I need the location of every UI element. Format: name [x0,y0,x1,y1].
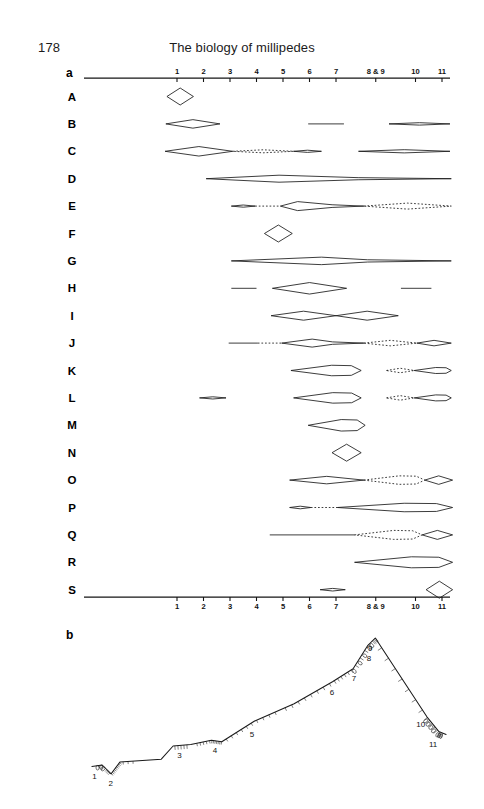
row-label-l: L [64,392,80,404]
profile-hatch [434,730,438,733]
profile-loop-ornament [425,722,430,727]
range-shape-wedge [337,503,452,512]
row-label-b: B [64,118,80,130]
profile-segment-label-3: 3 [177,751,182,760]
profile-loop-ornament [369,643,374,648]
range-shape-lens [422,530,452,539]
range-row-a [167,88,194,105]
axis-tick-label: 6 [307,602,311,611]
range-rows [165,88,453,598]
profile-hatch [206,741,207,744]
range-shape-lens [166,120,220,128]
profile-hatch [344,674,346,677]
row-label-g: G [64,255,80,267]
profile-hatch [374,639,377,642]
range-shape-spindle [206,175,451,182]
row-label-d: D [64,173,80,185]
profile-loop-ornament [428,725,433,730]
profile-hatch [392,669,396,672]
profile-hatch [292,705,293,708]
row-label-p: P [64,502,80,514]
range-shape-wedge [291,365,361,376]
profile-hatch [112,772,114,774]
profile-segment-label-4: 4 [213,746,218,755]
profile-loop-ornament [367,646,372,651]
range-row-j [229,339,452,347]
range-row-d [206,175,451,182]
row-label-j: J [64,337,80,349]
profile-loop-ornament [362,653,367,658]
axis-tick-label: 4 [254,67,259,76]
range-shape-diamond [272,283,346,295]
axis-tick-label: 11 [438,67,447,76]
profile-hatch [428,724,432,727]
range-row-q [270,530,453,539]
profile-hatch [398,679,402,682]
profile-hatch [203,742,204,745]
axis-tick-label: 6 [307,67,311,76]
range-shape-lens [294,150,322,152]
range-shape-diamond [336,311,398,320]
profile-hatch [111,774,113,776]
profile-hatch [431,727,435,730]
range-shape-lens [417,340,451,346]
range-shape-wedge-dotted [364,476,425,485]
profile-hatch [338,679,340,682]
axis-tick-label: 7 [334,602,338,611]
profile-hatch [226,739,228,742]
running-title: The biology of millipedes [0,40,484,55]
profile-hatch [275,712,276,715]
profile-hatch [101,766,103,768]
profile-hatch [118,765,120,767]
profile-hatch [438,732,440,737]
range-row-i [271,311,398,320]
row-label-i: I [64,310,80,322]
profile-hatch [241,730,243,733]
axis-tick-label: 3 [228,602,232,611]
profile-hatch [246,726,248,729]
profile-segment-label-1: 1 [92,772,97,781]
range-shape-diamond [167,88,194,105]
profile-hatch [311,694,313,697]
range-shape-lens [425,476,453,485]
panel-letter-a: a [66,66,73,80]
row-label-a: A [64,91,80,103]
figure-page: 178 The biology of millipedes a b ABCDEF… [0,0,484,809]
profile-hatch [107,772,109,774]
profile-loop-ornament [357,661,362,666]
profile-hatch [304,698,306,701]
profile-loop-ornament [101,766,106,771]
profile-hatch [298,702,300,705]
profile-hatch [257,720,258,723]
row-label-h: H [64,282,80,294]
profile-hatch [341,676,343,679]
profile-hatch [351,670,353,673]
profile-hatch [210,741,211,744]
profile-hatch [439,733,441,738]
profile-line [92,638,446,774]
range-shape-lens [200,397,227,399]
range-row-b [166,120,450,128]
range-row-f [264,225,292,242]
profile-hatch [329,684,331,687]
row-label-k: K [64,365,80,377]
range-row-s [320,581,453,598]
profile-segment-label-11: 11 [429,740,438,749]
profile-hatch [369,645,372,648]
range-row-l [200,393,452,404]
range-shape-lens [320,588,345,591]
axis-tick-label: 1 [175,67,180,76]
profile-hatch [251,723,253,726]
range-row-g [231,257,451,265]
axis-tick-label: 1 [175,602,180,611]
profile-hatch [106,771,108,773]
profile-hatch [317,691,319,694]
profile-hatch [348,672,350,675]
range-shape-lens [359,150,450,153]
profile-hatch [200,743,201,746]
profile-hatch [419,710,423,713]
profile-hatch [373,640,376,643]
profile-segment-label-9: 9 [368,644,373,653]
profile-loop-ornament [100,765,104,770]
range-shape-lens [290,506,311,509]
